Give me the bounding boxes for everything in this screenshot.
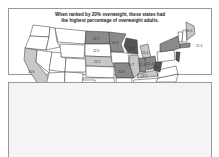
- label-in: 22.4: [139, 63, 145, 67]
- state-ia: [111, 52, 129, 63]
- state-ks: [86, 66, 114, 78]
- state-ma: [180, 43, 190, 48]
- state-wy: [60, 44, 85, 58]
- label-me: 20.3: [186, 29, 192, 33]
- label-mi: 21.4: [142, 51, 148, 55]
- label-wi: 22.6: [128, 47, 134, 51]
- label-ca: 20.8: [28, 70, 34, 74]
- state-wi: [124, 38, 138, 54]
- state-pa: [157, 50, 175, 62]
- state-wa: [30, 25, 50, 37]
- state-mt: [55, 28, 86, 44]
- label-ma: 21.4: [196, 44, 202, 48]
- state-ny: [160, 36, 180, 52]
- label-mo: 22.8: [118, 70, 124, 74]
- lower-panel: [8, 82, 212, 157]
- label-wv: 23.4: [153, 65, 159, 69]
- label-mn: 21.9: [112, 41, 118, 45]
- label-ne: 22.0: [94, 60, 100, 64]
- label-ky: 22.5: [141, 74, 147, 78]
- label-il: 20.7: [128, 63, 134, 67]
- label-sd: 22.5: [93, 49, 99, 53]
- label-nd: 22.7: [93, 37, 99, 41]
- state-or: [25, 36, 49, 50]
- state-nj: [176, 52, 180, 62]
- state-co: [65, 58, 86, 72]
